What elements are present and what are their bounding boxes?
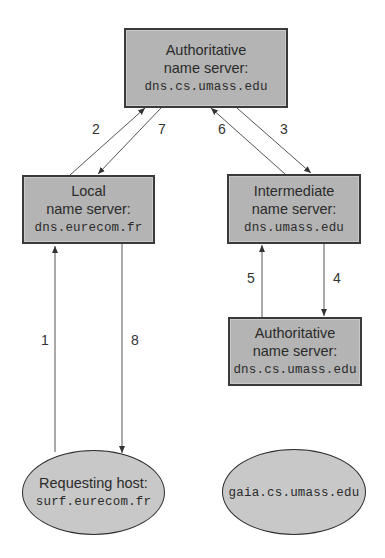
node-line1: Authoritative	[166, 41, 247, 59]
node-line1: Local	[71, 182, 106, 200]
node-host: dns.cs.umass.edu	[233, 361, 356, 379]
node-host: dns.eurecom.fr	[35, 219, 143, 237]
edge-label-7: 7	[158, 121, 166, 137]
edge-label-1: 1	[41, 332, 49, 348]
edge-label-3: 3	[280, 121, 288, 137]
node-line2: name server:	[46, 200, 131, 218]
node-line1: Authoritative	[255, 324, 336, 342]
node-line2: name server:	[253, 342, 338, 360]
node-host: gaia.cs.umass.edu	[229, 484, 360, 502]
node-host: dns.umass.edu	[244, 219, 344, 237]
node-line2: name server:	[164, 59, 249, 77]
node-line1: Intermediate	[254, 182, 335, 200]
bottom-authoritative-name-server: Authoritative name server: dns.cs.umass.…	[228, 317, 362, 386]
node-line1: Requesting host:	[39, 474, 148, 492]
local-name-server: Local name server: dns.eurecom.fr	[22, 175, 155, 244]
node-host: surf.eurecom.fr	[36, 493, 152, 511]
edge-label-8: 8	[131, 332, 139, 348]
edge-label-5: 5	[247, 270, 255, 286]
edge-label-2: 2	[92, 121, 100, 137]
node-line2: name server:	[252, 200, 337, 218]
edge-label-6: 6	[218, 121, 226, 137]
intermediate-name-server: Intermediate name server: dns.umass.edu	[227, 174, 361, 244]
target-host: gaia.cs.umass.edu	[222, 449, 366, 535]
edge-label-4: 4	[333, 270, 341, 286]
top-authoritative-name-server: Authoritative name server: dns.cs.umass.…	[124, 28, 288, 108]
arrow-2	[70, 108, 145, 175]
node-host: dns.cs.umass.edu	[144, 78, 267, 96]
requesting-host: Requesting host: surf.eurecom.fr	[22, 450, 165, 535]
